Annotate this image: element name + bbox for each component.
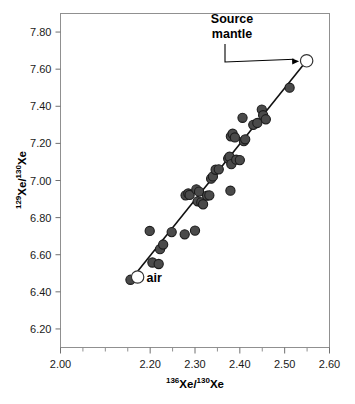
data-point	[230, 133, 239, 142]
data-point	[214, 165, 223, 174]
xenon-isotope-scatter-figure: 6.206.406.606.807.007.207.407.607.80 2.0…	[0, 0, 355, 404]
x-tick-label: 2.00	[50, 358, 71, 370]
data-point	[253, 118, 262, 127]
x-tick-label: 2.60	[319, 358, 340, 370]
y-tick-label: 7.40	[30, 100, 51, 112]
y-tick-label: 7.00	[30, 175, 51, 187]
data-point	[167, 227, 176, 236]
data-point	[154, 259, 163, 268]
y-tick-label: 7.80	[30, 26, 51, 38]
data-point	[180, 230, 189, 239]
endmember-point	[300, 55, 312, 67]
data-point	[285, 83, 294, 92]
data-point	[198, 200, 207, 209]
y-tick-label: 7.20	[30, 137, 51, 149]
x-tick-label: 2.50	[274, 358, 295, 370]
data-point	[235, 155, 244, 164]
y-tick-label: 6.40	[30, 286, 51, 298]
x-tick-label: 2.30	[184, 358, 205, 370]
endmember-point	[131, 271, 143, 283]
data-point	[241, 135, 250, 144]
data-point	[238, 113, 247, 122]
data-point	[205, 191, 214, 200]
y-tick-label: 6.20	[30, 323, 51, 335]
data-point	[226, 186, 235, 195]
data-point	[145, 226, 154, 235]
plot-canvas: 6.206.406.606.807.007.207.407.607.80 2.0…	[0, 0, 355, 404]
data-point	[261, 115, 270, 124]
air-label: air	[147, 271, 162, 285]
y-axis-tick-labels: 6.206.406.606.807.007.207.407.607.80	[30, 26, 51, 335]
data-point	[190, 226, 199, 235]
y-tick-label: 6.60	[30, 249, 51, 261]
source-mantle-label-line1: Source	[211, 12, 253, 26]
x-tick-label: 2.40	[229, 358, 250, 370]
source-mantle-label-line2: mantle	[212, 27, 252, 41]
data-point	[159, 240, 168, 249]
y-tick-label: 6.80	[30, 212, 51, 224]
y-tick-label: 7.60	[30, 63, 51, 75]
x-tick-label: 2.20	[139, 358, 160, 370]
